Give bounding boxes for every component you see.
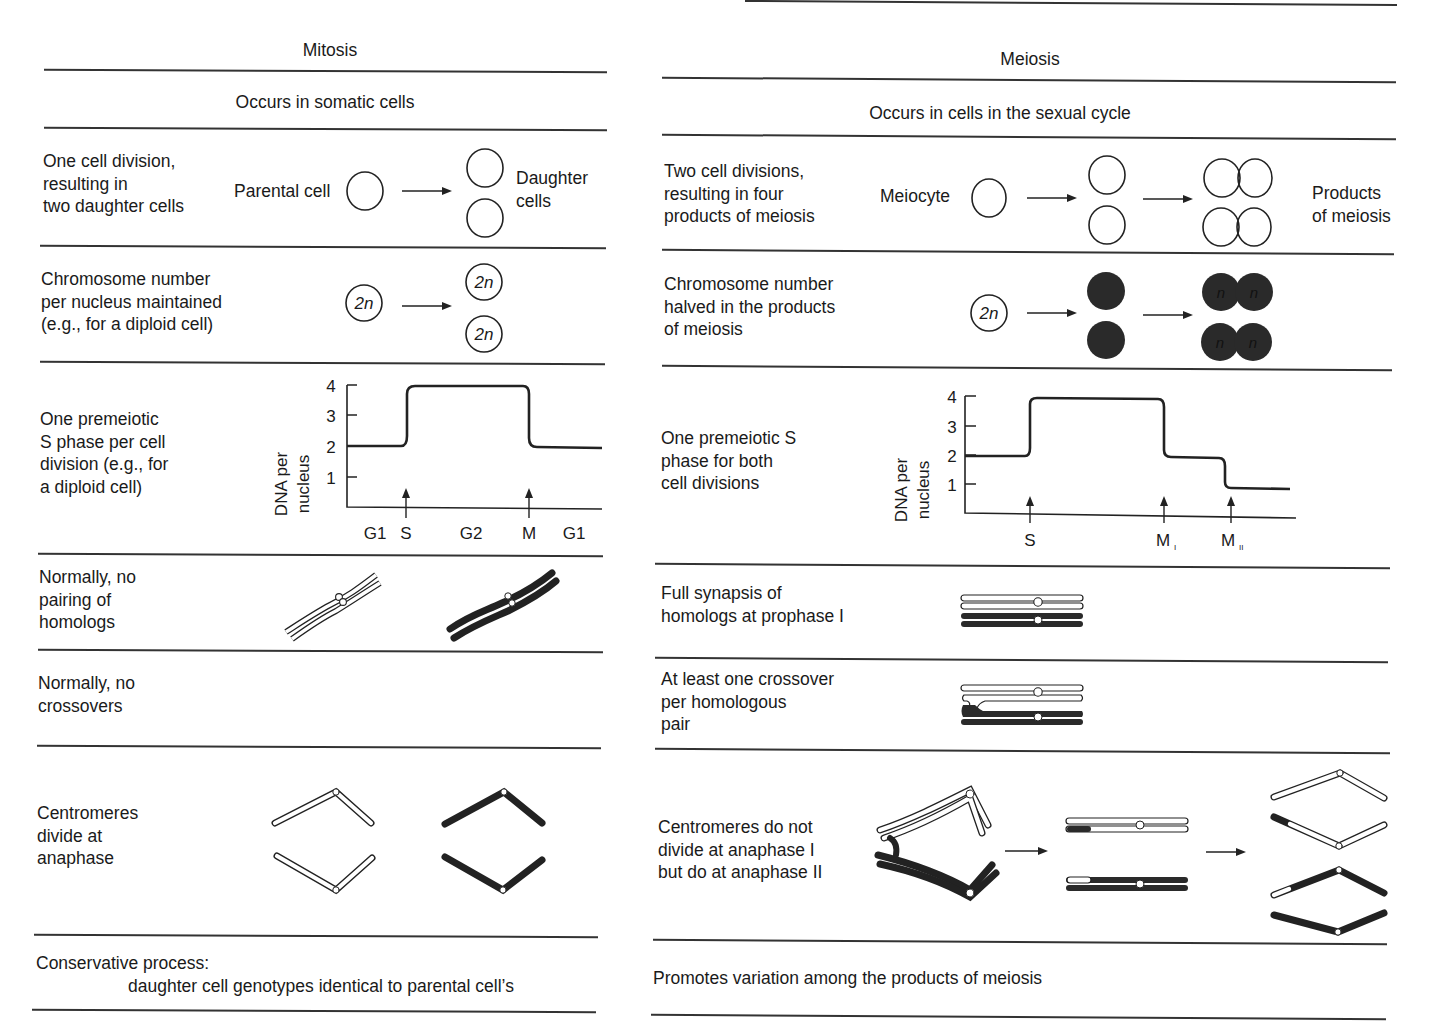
filled-cell-icon	[1087, 321, 1125, 359]
meiosis-occurs: Occurs in cells in the sexual cycle	[820, 102, 1180, 125]
svg-text:3: 3	[326, 407, 335, 426]
light-homolog-icon	[961, 595, 1083, 609]
arrow-icon	[1236, 848, 1246, 856]
parental-cell-label: Parental cell	[234, 180, 330, 203]
mitosis-row-label: Normally, no pairing of homologs	[39, 566, 136, 634]
arrow-icon	[1160, 496, 1168, 506]
arrow-icon	[442, 187, 452, 195]
meiosis-row-label: Two cell divisions, resulting in four pr…	[664, 160, 815, 228]
mitosis-row-label: Normally, no crossovers	[38, 672, 135, 717]
svg-text:2n: 2n	[354, 294, 374, 313]
divider	[745, 0, 1397, 5]
chromosome-number-diagram: 2n 2n 2n	[340, 260, 520, 360]
svg-text:2n: 2n	[474, 325, 494, 344]
svg-text:2: 2	[947, 447, 956, 466]
light-chromatid-icon	[275, 789, 372, 893]
svg-text:S: S	[1024, 531, 1035, 550]
cell-division-diagram	[340, 145, 520, 245]
svg-text:M: M	[1156, 531, 1170, 550]
svg-text:n: n	[1250, 284, 1258, 301]
arrow-icon	[1067, 194, 1077, 202]
mitosis-row-label: One premeiotic S phase per cell division…	[40, 408, 168, 498]
filled-cell-icon	[1087, 272, 1125, 310]
divider	[44, 127, 607, 131]
arrow-icon	[402, 488, 410, 498]
product-cell-icon	[1204, 159, 1240, 197]
meiosis-row-label: One premeiotic S phase for both cell div…	[661, 427, 796, 495]
svg-text:G2: G2	[460, 524, 483, 543]
meiosis-summary: Promotes variation among the products of…	[653, 967, 1042, 990]
mitosis-row-label: Chromosome number per nucleus maintained…	[41, 268, 222, 336]
meiosis-dna-chart: DNA per nucleus 4 3 2 1 S M I M II	[885, 380, 1305, 560]
svg-text:3: 3	[947, 418, 956, 437]
arrow-icon	[442, 302, 452, 310]
meiosis-title: Meiosis	[930, 48, 1130, 71]
meiotic-anaphase-diagram	[870, 765, 1400, 940]
meiosis-row-label: Full synapsis of homologs at prophase I	[661, 582, 844, 627]
divider	[44, 69, 607, 73]
svg-text:M: M	[522, 524, 536, 543]
svg-text:nucleus: nucleus	[294, 455, 313, 514]
mitosis-summary-line2: daughter cell genotypes identical to par…	[128, 975, 514, 998]
light-chromosome-icon	[286, 575, 380, 639]
divider	[655, 563, 1390, 569]
dyad-icon	[1066, 818, 1188, 891]
svg-text:DNA per: DNA per	[892, 458, 911, 523]
meiocyte-label: Meiocyte	[880, 185, 950, 208]
arrow-icon	[1183, 311, 1193, 319]
divider	[37, 745, 601, 749]
svg-text:2n: 2n	[474, 273, 494, 292]
divider	[662, 134, 1396, 140]
divider	[655, 748, 1390, 754]
crossover-diagram	[955, 680, 1090, 726]
daughter-cells-label: Daughter cells	[516, 167, 588, 212]
product-cell-icon	[1237, 208, 1271, 246]
mitosis-dna-chart: DNA per nucleus 4 3 2 1 G1 S G2 M G1	[265, 372, 610, 552]
mitosis-row-label: Centromeres divide at anaphase	[37, 802, 138, 870]
daughter-cell-icon	[467, 199, 503, 237]
divider	[32, 1009, 596, 1013]
products-label: Products of meiosis	[1312, 182, 1391, 227]
svg-text:n: n	[1216, 334, 1224, 351]
svg-text:nucleus: nucleus	[914, 461, 933, 520]
divider	[651, 1014, 1386, 1020]
mitosis-row-label: One cell division, resulting in two daug…	[43, 150, 184, 218]
svg-text:n: n	[1217, 284, 1225, 301]
svg-text:I: I	[1174, 543, 1176, 552]
arrow-icon	[1067, 309, 1077, 317]
crossover-icon	[961, 685, 1083, 725]
divider	[40, 245, 606, 249]
svg-text:4: 4	[947, 388, 956, 407]
unpaired-homologs-diagram	[280, 565, 570, 645]
svg-text:n: n	[1249, 334, 1257, 351]
svg-text:G1: G1	[563, 524, 586, 543]
mitosis-title: Mitosis	[230, 39, 430, 62]
svg-text:4: 4	[326, 377, 335, 396]
divider	[655, 657, 1388, 663]
dark-chromosome-icon	[450, 573, 556, 638]
svg-text:S: S	[400, 524, 411, 543]
arrow-icon	[525, 488, 533, 498]
daughter-cell-icon	[467, 149, 503, 187]
divider	[34, 934, 598, 938]
svg-text:1: 1	[947, 476, 956, 495]
meiosis-row-label: Chromosome number halved in the products…	[664, 273, 835, 341]
dark-chromatid-icon	[445, 789, 542, 893]
arrow-icon	[1227, 496, 1235, 506]
divider	[662, 365, 1392, 371]
arrow-icon	[1026, 496, 1034, 506]
dna-curve	[347, 386, 602, 448]
meiosis-cell-division-diagram	[965, 150, 1295, 250]
divider	[40, 361, 605, 365]
anaphase-diagram	[265, 780, 555, 900]
svg-text:M: M	[1221, 531, 1235, 550]
mitosis-summary-line1: Conservative process:	[36, 952, 209, 975]
svg-text:DNA per: DNA per	[272, 452, 291, 517]
mitosis-occurs: Occurs in somatic cells	[150, 91, 500, 114]
svg-text:II: II	[1239, 543, 1243, 552]
meiosis-row-label: At least one crossover per homologous pa…	[661, 668, 834, 736]
cell-icon	[1089, 156, 1125, 194]
arrow-icon	[1038, 847, 1048, 855]
dna-curve	[965, 398, 1290, 489]
svg-text:G1: G1	[364, 524, 387, 543]
